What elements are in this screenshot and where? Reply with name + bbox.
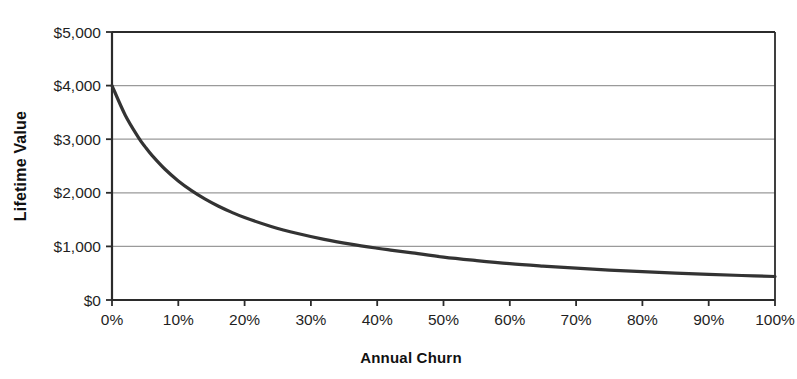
y-tick-label: $2,000 bbox=[54, 184, 102, 201]
x-tick-label: 40% bbox=[362, 311, 393, 328]
x-tick-label: 50% bbox=[428, 311, 459, 328]
x-tick-label: 10% bbox=[163, 311, 194, 328]
lifetime-value-vs-churn-chart: 0%10%20%30%40%50%60%70%80%90%100% $0$1,0… bbox=[0, 0, 797, 379]
y-axis-title: Lifetime Value bbox=[12, 111, 29, 221]
x-tick-label: 100% bbox=[755, 311, 795, 328]
x-tick-label: 70% bbox=[561, 311, 592, 328]
x-axis-title: Annual Churn bbox=[360, 349, 462, 366]
y-tick-label: $5,000 bbox=[54, 24, 102, 41]
y-tick-label: $1,000 bbox=[54, 238, 102, 255]
chart-container: 0%10%20%30%40%50%60%70%80%90%100% $0$1,0… bbox=[0, 0, 797, 379]
x-tick-label: 80% bbox=[627, 311, 658, 328]
y-tick-label: $0 bbox=[84, 292, 102, 309]
y-tick-label: $4,000 bbox=[54, 77, 102, 94]
y-tick-label: $3,000 bbox=[54, 131, 102, 148]
x-tick-label: 90% bbox=[693, 311, 724, 328]
x-tick-label: 0% bbox=[101, 311, 124, 328]
x-tick-label: 60% bbox=[494, 311, 525, 328]
x-tick-label: 30% bbox=[295, 311, 326, 328]
x-tick-label: 20% bbox=[229, 311, 260, 328]
